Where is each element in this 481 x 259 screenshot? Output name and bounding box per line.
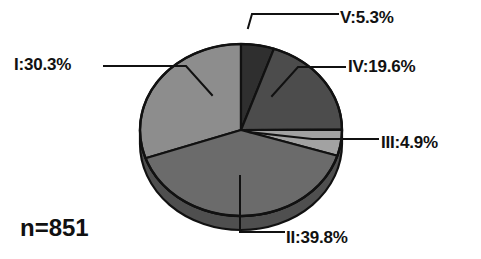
pie-chart-figure: I:30.3% V:5.3% IV:19.6% III:4.9% II:39.8… xyxy=(0,0,481,259)
pie-label-I: I:30.3% xyxy=(14,55,71,75)
pie-label-V: V:5.3% xyxy=(340,8,394,28)
pie-label-II: II:39.8% xyxy=(286,228,348,248)
sample-size-annotation: n=851 xyxy=(20,214,89,242)
pie-label-III: III:4.9% xyxy=(381,133,438,153)
pie-label-IV: IV:19.6% xyxy=(348,57,415,77)
leader-line-V xyxy=(248,14,338,28)
